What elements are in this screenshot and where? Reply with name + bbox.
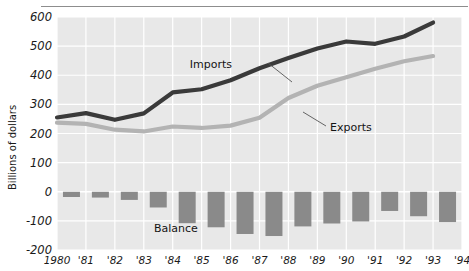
- x-tick-label-1989: '89: [309, 254, 326, 266]
- balance-bar-1984: [179, 192, 196, 223]
- x-tick-label-1984: '84: [165, 254, 181, 266]
- annotation-imports: Imports: [190, 58, 233, 71]
- x-tick-label-1985: '85: [193, 254, 210, 266]
- y-tick-label-400: 400: [30, 68, 52, 82]
- balance-bar-1992: [410, 192, 427, 216]
- balance-bar-1990: [352, 192, 369, 222]
- x-tick-label-1987: '87: [251, 254, 268, 266]
- x-tick-label-1983: '83: [136, 254, 152, 266]
- balance-bar-1985: [208, 192, 225, 228]
- trade-balance-chart: 6005004003002001000-100-200 1980'81'82'8…: [0, 0, 469, 271]
- y-tick-label-600: 600: [30, 10, 52, 24]
- x-tick-label-1993: '93: [425, 254, 441, 266]
- x-tick-label-1986: '86: [222, 254, 239, 266]
- annotation-balance: Balance: [154, 222, 198, 235]
- y-tick-label--100: -100: [26, 214, 52, 228]
- balance-bar-1987: [265, 192, 282, 236]
- x-tick-label-1982: '82: [107, 254, 124, 266]
- annotation-exports: Exports: [330, 121, 372, 134]
- chart-container: 6005004003002001000-100-200 1980'81'82'8…: [0, 0, 469, 271]
- balance-bar-1981: [92, 192, 109, 198]
- x-axis-tick-labels: 1980'81'82'83'84'85'86'87'88'89'90'91'92…: [44, 254, 469, 266]
- x-tick-label-1981: '81: [78, 254, 94, 266]
- x-tick-label-1990: '90: [338, 254, 355, 266]
- y-axis-title: Billions of dollars: [7, 105, 18, 190]
- x-tick-label-1992: '92: [396, 254, 413, 266]
- y-tick-label-300: 300: [30, 97, 52, 111]
- top-rule-divider: [41, 6, 468, 7]
- y-tick-label-500: 500: [30, 39, 52, 53]
- x-tick-label-1994: '94: [454, 254, 469, 266]
- balance-bar-1982: [121, 192, 138, 200]
- x-tick-label-1988: '88: [280, 254, 297, 266]
- y-tick-label-100: 100: [30, 156, 52, 170]
- y-axis-tick-labels: 6005004003002001000-100-200: [26, 10, 52, 257]
- balance-bar-1993: [439, 192, 456, 222]
- y-tick-label-200: 200: [30, 127, 52, 141]
- y-axis-title-group: Billions of dollars: [7, 105, 18, 190]
- balance-bar-1986: [237, 192, 254, 234]
- y-tick-label-0: 0: [45, 185, 52, 199]
- balance-bar-1991: [381, 192, 398, 211]
- x-tick-label-1991: '91: [367, 254, 383, 266]
- x-tick-label-1980: 1980: [44, 254, 71, 266]
- balance-bar-1989: [323, 192, 340, 224]
- balance-bar-1988: [294, 192, 311, 227]
- balance-bar-1983: [150, 192, 167, 208]
- balance-bar-1980: [63, 192, 80, 197]
